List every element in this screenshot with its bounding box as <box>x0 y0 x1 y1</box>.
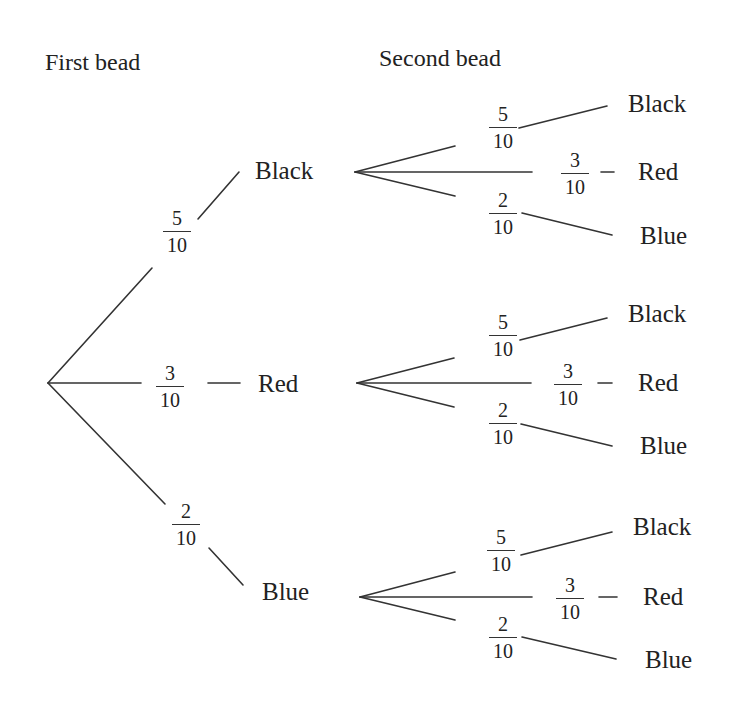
second-red-outcome-black: Black <box>628 301 686 326</box>
second-black-prob-blue: 2 10 <box>489 190 517 237</box>
tree-lines <box>0 0 736 705</box>
second-red-outcome-blue: Blue <box>640 433 687 458</box>
second-black-outcome-black: Black <box>628 91 686 116</box>
first-outcome-red: Red <box>258 371 298 396</box>
second-blue-prob-blue: 2 10 <box>489 614 517 661</box>
header-first-bead: First bead <box>45 50 140 74</box>
second-blue-outcome-black: Black <box>633 514 691 539</box>
branch-line-first-black-upper <box>198 172 239 219</box>
second-black-prob-black: 5 10 <box>489 104 517 151</box>
branch-line-first-black-lower <box>48 268 152 383</box>
second-blue-outcome-red: Red <box>643 584 683 609</box>
first-prob-red: 3 10 <box>156 363 184 410</box>
second-black-outcome-red: Red <box>638 159 678 184</box>
second-blue-prob-black: 5 10 <box>487 527 515 574</box>
second-red-prob-red: 3 10 <box>554 361 582 408</box>
second-red-outcome-red: Red <box>638 370 678 395</box>
second-red-prob-black: 5 10 <box>489 312 517 359</box>
second-blue-prob-red: 3 10 <box>556 575 584 622</box>
branch-line-first-blue-upper <box>48 383 165 504</box>
second-blue-outcome-blue: Blue <box>645 647 692 672</box>
second-black-outcome-blue: Blue <box>640 223 687 248</box>
second-red-prob-blue: 2 10 <box>489 400 517 447</box>
first-outcome-black: Black <box>255 158 313 183</box>
second-black-prob-red: 3 10 <box>561 150 589 197</box>
first-prob-blue: 2 10 <box>172 501 200 548</box>
branch-line-first-blue-lower <box>209 548 243 585</box>
first-prob-black: 5 10 <box>163 208 191 255</box>
first-outcome-blue: Blue <box>262 579 309 604</box>
header-second-bead: Second bead <box>379 46 501 70</box>
